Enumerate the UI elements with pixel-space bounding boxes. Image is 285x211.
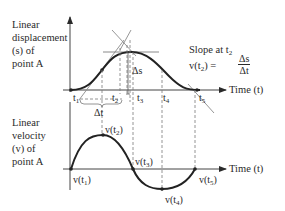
bottom-ylabel: Linear velocity (v) of point A [12,116,46,168]
v-t5-label: v(t5) [199,173,217,190]
time-mark-t1: t1 [73,91,79,108]
v-t3-label: v(t3) [135,155,153,172]
v-t4-label: v(t4) [165,193,183,210]
time-mark-t2: t2 [112,91,118,108]
time-mark-t5: t5 [199,91,205,108]
top-xlabel: Time (t) [229,83,263,96]
time-mark-t4: t4 [163,91,169,108]
delta-t-label: Δt [94,106,103,119]
slope-note-equation: v(t2) = [189,59,216,76]
v-t2-label: v(t2) [105,123,123,140]
v-t1-label: v(t1) [73,173,91,190]
delta-s-label: Δs [132,64,142,77]
time-mark-t3: t3 [137,91,143,108]
slope-note-title: Slope at t2 [189,43,232,60]
bottom-xlabel: Time (t) [229,162,263,175]
slope-fraction: Δs Δt [238,53,250,76]
top-ylabel: Linear displacement (s) of point A [12,18,67,70]
